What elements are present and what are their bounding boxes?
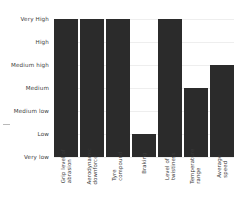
x-axis-tick-label: Grip level ofabrasion [54,160,78,211]
y-axis-tick-label: Low [38,131,49,137]
x-axis: Grip level ofabrasion Aerodynamicdownfor… [54,160,234,211]
x-axis-tick-label: Temperaturerange [184,160,208,211]
x-axis-tick-line: compound [118,152,124,181]
x-axis-tick-label: Level oftwistiness [158,160,182,211]
x-axis-tick-label: Averagespeed [210,160,234,211]
x-axis-tick-line: twistiness [170,152,176,180]
x-axis-tick-line: range [196,149,202,184]
x-axis-tick-line: Average [216,155,222,178]
plot-area [54,19,234,157]
y-axis-tick-label: Medium [26,85,49,91]
y-axis-tick-label: Medium high [11,62,49,68]
x-axis-tick-line: Braking [141,152,147,173]
x-axis-tick-line: downforce [92,148,98,184]
x-axis-tick-line: abrasion [66,149,72,183]
bar [54,19,78,157]
bar [184,88,208,157]
x-axis-tick-label: Aerodynamicdownforce [80,160,104,211]
y-axis-tick-label: Very low [24,154,49,160]
bar [158,19,182,157]
bar-chart: Very High High Medium high Medium Medium… [0,0,244,211]
bar [106,19,130,157]
bar [210,65,234,157]
x-axis-tick-line: speed [222,155,228,178]
y-axis-tick-label: Very High [21,16,49,22]
bar [80,19,104,157]
y-axis: Very High High Medium high Medium Medium… [0,0,52,211]
x-axis-tick-line: Aerodynamic [86,148,92,184]
x-axis-tick-label: Braking [132,160,156,211]
x-axis-tick-label: Tyrecompound [106,160,130,211]
y-axis-tick-label: High [36,39,49,45]
y-axis-tick-label: Medium low [14,108,49,114]
